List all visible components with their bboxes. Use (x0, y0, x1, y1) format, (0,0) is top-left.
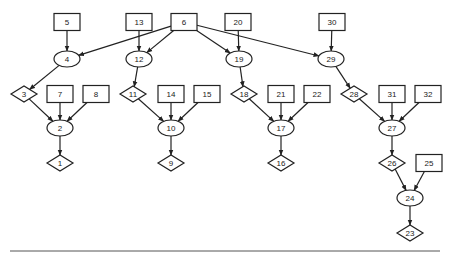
node-label: 12 (135, 55, 144, 64)
node-label: 26 (388, 159, 397, 168)
node-17: 17 (268, 120, 294, 136)
node-label: 8 (94, 90, 99, 99)
node-22: 22 (304, 86, 330, 103)
node-4: 4 (54, 51, 80, 67)
node-label: 1 (58, 159, 63, 168)
node-3: 3 (11, 86, 37, 102)
node-19: 19 (226, 51, 252, 67)
node-label: 11 (129, 90, 138, 99)
node-25: 25 (416, 155, 442, 172)
node-8: 8 (83, 86, 109, 103)
node-label: 3 (22, 90, 27, 99)
node-24: 24 (397, 190, 423, 206)
node-label: 29 (327, 55, 336, 64)
edge-12-to-11 (134, 67, 137, 87)
node-14: 14 (158, 86, 184, 103)
node-11: 11 (120, 86, 146, 102)
node-23: 23 (397, 225, 423, 241)
node-27: 27 (379, 120, 405, 136)
node-label: 4 (65, 55, 70, 64)
node-7: 7 (47, 86, 73, 103)
node-label: 14 (167, 90, 176, 99)
edge-19-to-18 (240, 67, 243, 87)
node-13: 13 (126, 14, 152, 31)
node-label: 2 (58, 124, 63, 133)
node-label: 32 (424, 90, 433, 99)
node-label: 6 (182, 18, 187, 27)
node-6: 6 (171, 14, 197, 31)
node-label: 18 (240, 90, 249, 99)
node-label: 21 (277, 90, 286, 99)
node-label: 31 (388, 90, 397, 99)
node-31: 31 (379, 86, 405, 103)
node-30: 30 (319, 14, 345, 31)
node-label: 24 (406, 194, 415, 203)
node-label: 20 (234, 18, 243, 27)
node-5: 5 (54, 14, 80, 31)
node-label: 28 (350, 90, 359, 99)
node-20: 20 (225, 14, 251, 31)
node-label: 7 (58, 90, 63, 99)
node-label: 13 (135, 18, 144, 27)
edge-8-to-2 (67, 103, 87, 122)
node-9: 9 (158, 155, 184, 171)
edge-32-to-27 (399, 103, 419, 122)
node-label: 15 (203, 90, 212, 99)
node-label: 9 (169, 159, 174, 168)
node-label: 25 (425, 159, 434, 168)
edge-6-to-4 (79, 26, 171, 55)
edge-30-to-29 (331, 31, 332, 52)
node-label: 17 (277, 124, 286, 133)
edge-20-to-19 (238, 31, 239, 52)
edge-15-to-10 (178, 103, 198, 122)
node-label: 16 (277, 159, 286, 168)
node-28: 28 (341, 86, 367, 102)
edge-25-to-24 (414, 172, 424, 191)
node-label: 27 (388, 124, 397, 133)
node-label: 23 (406, 229, 415, 238)
node-29: 29 (318, 51, 344, 67)
edge-29-to-28 (336, 66, 350, 88)
node-2: 2 (47, 120, 73, 136)
node-label: 5 (65, 18, 70, 27)
node-1: 1 (47, 155, 73, 171)
dependency-graph: 5136203041219293781114151821222831322101… (0, 0, 456, 256)
node-26: 26 (379, 155, 405, 171)
nodes: 5136203041219293781114151821222831322101… (11, 14, 442, 242)
node-32: 32 (415, 86, 441, 103)
edge-6-to-12 (147, 31, 174, 53)
node-10: 10 (158, 120, 184, 136)
node-12: 12 (126, 51, 152, 67)
node-label: 30 (328, 18, 337, 27)
edge-6-to-29 (197, 25, 319, 56)
node-label: 22 (313, 90, 322, 99)
edge-26-to-24 (395, 169, 406, 190)
edge-22-to-17 (288, 103, 308, 122)
node-16: 16 (268, 155, 294, 171)
edge-6-to-19 (197, 31, 231, 54)
node-label: 19 (235, 55, 244, 64)
node-15: 15 (194, 86, 220, 103)
node-21: 21 (268, 86, 294, 103)
node-18: 18 (231, 86, 257, 102)
node-label: 10 (167, 124, 176, 133)
